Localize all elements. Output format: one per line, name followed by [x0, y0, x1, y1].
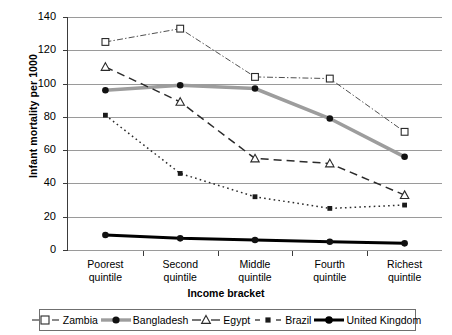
data-point-2: [253, 194, 258, 199]
series-egypt: [101, 63, 409, 199]
data-point-4: [401, 240, 408, 247]
data-point-4: [401, 128, 408, 135]
data-point-0: [102, 87, 109, 94]
data-point-0: [101, 63, 109, 71]
legend-marker-icon: [31, 313, 61, 327]
series-zambia: [102, 25, 408, 135]
legend-label: United Kingdom: [344, 314, 424, 326]
legend-label: Zambia: [61, 314, 101, 326]
legend-item-united-kingdom[interactable]: United Kingdom: [314, 313, 424, 327]
data-point-0: [102, 232, 109, 239]
data-point-1: [177, 25, 184, 32]
legend-label: Brazil: [283, 314, 314, 326]
data-point-1: [178, 171, 183, 176]
data-point-3: [326, 75, 333, 82]
legend-marker-icon: [253, 313, 283, 327]
data-point-3: [327, 206, 332, 211]
infant-mortality-line-chart: Infant mortality per 1000 02040608010012…: [0, 0, 452, 335]
data-point-3: [327, 238, 334, 245]
data-point-0: [103, 113, 108, 118]
data-point-4: [402, 203, 407, 208]
data-point-4: [401, 154, 408, 161]
legend-marker-icon: [191, 313, 221, 327]
data-point-4: [400, 191, 408, 199]
chart-legend: ZambiaBangladeshEgyptBrazilUnited Kingdo…: [39, 309, 416, 331]
series-line: [105, 85, 404, 157]
legend-item-zambia[interactable]: Zambia: [31, 313, 101, 327]
legend-item-brazil[interactable]: Brazil: [253, 313, 314, 327]
data-point-2: [252, 74, 259, 81]
data-point-2: [252, 85, 259, 92]
legend-item-bangladesh[interactable]: Bangladesh: [101, 313, 191, 327]
legend-label: Egypt: [221, 314, 253, 326]
legend-item-egypt[interactable]: Egypt: [191, 313, 253, 327]
data-point-0: [102, 39, 109, 46]
data-point-1: [177, 235, 184, 242]
x-axis-title: Income bracket: [0, 287, 452, 299]
data-point-2: [252, 237, 259, 244]
legend-label: Bangladesh: [131, 314, 191, 326]
data-point-1: [177, 82, 184, 89]
series-layer: [0, 0, 452, 335]
series-united-kingdom: [102, 232, 408, 247]
legend-marker-icon: [101, 313, 131, 327]
data-point-1: [176, 98, 184, 106]
data-point-3: [327, 115, 334, 122]
legend-marker-icon: [314, 313, 344, 327]
